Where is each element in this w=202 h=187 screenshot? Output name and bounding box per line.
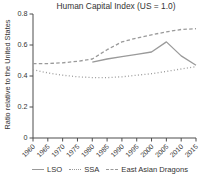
y-tick-label: 0.6 — [18, 40, 28, 49]
x-tick-label: 1965 — [35, 143, 51, 159]
x-tick-label: 1960 — [20, 143, 36, 159]
x-tick-label: 2005 — [154, 143, 170, 159]
plot-area: 00.20.40.60.8196019651970197519801985199… — [0, 0, 202, 164]
series-line-ssa — [33, 67, 196, 78]
x-tick-label: 1975 — [65, 143, 81, 159]
human-capital-index-chart: Human Capital Index (US = 1.0) Ratio rel… — [0, 0, 202, 187]
x-tick-label: 1980 — [80, 143, 96, 159]
y-tick-label: 0 — [24, 133, 28, 142]
dashed-line-swatch-icon — [106, 169, 118, 170]
dotted-line-swatch-icon — [69, 169, 81, 170]
axes — [33, 14, 196, 138]
legend-label: East Asian Dragons — [121, 165, 188, 174]
solid-line-swatch-icon — [32, 169, 44, 170]
x-tick-label: 1970 — [50, 143, 66, 159]
x-tick-label: 2010 — [169, 143, 185, 159]
x-tick-label: 2015 — [183, 143, 199, 159]
legend-item-lso: LSO — [32, 165, 62, 174]
legend: LSOSSAEast Asian Dragons — [18, 165, 202, 174]
legend-item-ssa: SSA — [69, 165, 99, 174]
y-tick-label: 0.8 — [18, 9, 28, 18]
legend-item-east-asian-dragons: East Asian Dragons — [106, 165, 188, 174]
legend-label: LSO — [47, 165, 62, 174]
x-tick-label: 1985 — [94, 143, 110, 159]
x-tick-label: 1995 — [124, 143, 140, 159]
series-line-lso — [92, 42, 196, 65]
x-tick-label: 2000 — [139, 143, 155, 159]
y-tick-label: 0.4 — [18, 71, 28, 80]
legend-label: SSA — [84, 165, 99, 174]
y-tick-label: 0.2 — [18, 102, 28, 111]
x-tick-label: 1990 — [109, 143, 125, 159]
